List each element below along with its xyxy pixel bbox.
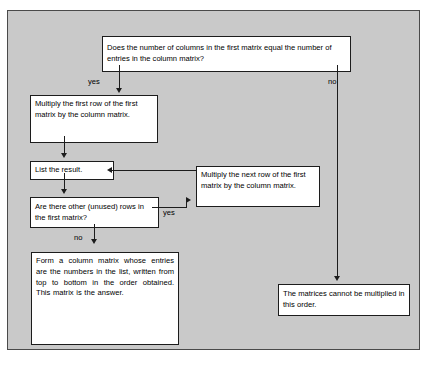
node-multiply-next-row: Multiply the next row of the first matri… — [196, 166, 320, 207]
node-list-result: List the result. — [30, 161, 114, 180]
connector-rows-no-to-form-column — [94, 224, 95, 240]
edge-label-question-yes: yes — [88, 78, 100, 86]
connector-list-result-to-are-there-other — [64, 173, 65, 190]
connector-rows-yes-horizontal — [152, 207, 187, 208]
arrowhead-question-to-multiply-first — [116, 88, 122, 93]
arrowhead-list-result-to-are-there-other — [61, 189, 67, 194]
arrowhead-multiply-first-to-list-result — [61, 153, 67, 158]
connector-multiply-first-to-list-result — [64, 136, 65, 154]
arrowhead-rows-yes-to-multiply-next — [186, 197, 191, 203]
connector-question-to-multiply-first — [119, 65, 120, 89]
edge-label-rows-no: no — [74, 234, 82, 242]
node-form-column-matrix: Form a column matrix whose entries are t… — [31, 252, 179, 345]
node-columns-equal-entries-question: Does the number of columns in the first … — [102, 36, 351, 72]
arrowhead-rows-no-to-form-column — [91, 239, 97, 244]
edge-label-rows-yes: yes — [163, 209, 175, 217]
connector-multiply-next-to-list-result — [110, 170, 196, 171]
node-multiply-first-row: Multiply the first row of the first matr… — [30, 95, 158, 143]
connector-question-to-cannot-multiply — [337, 65, 338, 277]
arrowhead-question-to-cannot-multiply — [334, 276, 340, 281]
node-cannot-multiply: The matrices cannot be multiplied in thi… — [278, 284, 410, 316]
flowchart-page: Does the number of columns in the first … — [0, 0, 431, 367]
edge-label-question-no: no — [328, 78, 336, 86]
diagram-frame: Does the number of columns in the first … — [7, 10, 420, 350]
arrowhead-multiply-next-to-list-result — [107, 167, 112, 173]
